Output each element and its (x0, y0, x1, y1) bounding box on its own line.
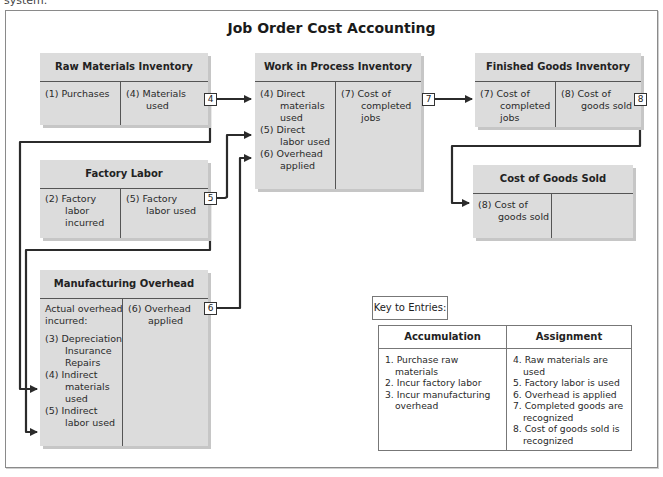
t-account-divider (551, 194, 552, 238)
account-title: Raw Materials Inventory (40, 53, 208, 82)
entry-2: (2) Factory (45, 193, 104, 205)
debit-side: (8) Cost of goods sold (478, 199, 549, 223)
accumulation-list: 1. Purchase raw materials 2. Incur facto… (385, 354, 503, 412)
actual-overhead-label-cont: incurred: (45, 315, 126, 327)
entry-5-cont: labor used (45, 417, 126, 429)
entry-5-cont: labor used (260, 136, 330, 148)
entry-7-cont: completed (341, 100, 411, 112)
key-item-2: 2. Incur factory labor (385, 377, 503, 389)
key-item-1: 1. Purchase raw materials (385, 354, 503, 377)
entry-tag-4: 4 (204, 93, 217, 106)
entry-3: (3) Depreciation (45, 333, 126, 345)
key-to-entries-table: Accumulation Assignment 1. Purchase raw … (378, 325, 632, 451)
entry-8-cont: goods sold (478, 211, 549, 223)
account-title: Manufacturing Overhead (40, 270, 208, 299)
entry-5-cont: labor used (126, 205, 196, 217)
entry-6-cont: applied (260, 160, 330, 172)
entry-4-cont: materials (45, 381, 126, 393)
key-to-entries-label: Key to Entries: (372, 296, 448, 320)
credit-side: (5) Factory labor used (126, 193, 196, 217)
entry-7-cont: jobs (480, 112, 550, 124)
entry-tag-7: 7 (422, 93, 435, 106)
entry-4-cont: used (260, 112, 330, 124)
entry-3-cont: Repairs (45, 357, 126, 369)
debit-side: (1) Purchases (45, 88, 110, 100)
credit-side: (6) Overhead applied (128, 303, 194, 327)
entry-7-cont: jobs (341, 112, 411, 124)
debit-side: Actual overhead incurred: (3) Depreciati… (45, 303, 126, 429)
entry-tag-6: 6 (204, 302, 217, 315)
entry-7: (7) Cost of (480, 88, 550, 100)
debit-side: (4) Direct materials used (5) Direct lab… (260, 88, 330, 172)
account-title: Work in Process Inventory (255, 53, 421, 82)
entry-4-cont: materials (260, 100, 330, 112)
account-finished-goods-inventory: Finished Goods Inventory (7) Cost of com… (475, 53, 641, 127)
key-item-5: 5. Factory labor is used (513, 377, 627, 389)
entry-6: (6) Overhead (128, 303, 194, 315)
actual-overhead-label: Actual overhead (45, 303, 126, 315)
debit-side: (7) Cost of completed jobs (480, 88, 550, 124)
t-account-divider (120, 82, 121, 125)
account-title: Cost of Goods Sold (473, 165, 633, 194)
assignment-header: Assignment (507, 326, 631, 349)
key-item-4: 4. Raw materials are used (513, 354, 627, 377)
entry-5: (5) Direct (260, 124, 330, 136)
entry-5: (5) Factory (126, 193, 196, 205)
credit-side: (4) Materials used (126, 88, 190, 112)
assignment-list: 4. Raw materials are used 5. Factory lab… (513, 354, 627, 446)
account-raw-materials-inventory: Raw Materials Inventory (1) Purchases (4… (40, 53, 208, 125)
entry-2-cont: incurred (45, 217, 104, 229)
entry-4-cont: used (45, 393, 126, 405)
entry-8-cont: goods sold (561, 100, 632, 112)
accumulation-header: Accumulation (379, 326, 506, 349)
credit-side: (8) Cost of goods sold (561, 88, 632, 112)
key-divider (506, 326, 507, 450)
entry-4: (4) Direct (260, 88, 330, 100)
entry-7-cont: completed (480, 100, 550, 112)
entry-2-cont: labor (45, 205, 104, 217)
t-account-divider (335, 82, 336, 189)
key-item-3: 3. Incur manufacturing overhead (385, 389, 503, 412)
entry-tag-5: 5 (204, 192, 217, 205)
entry-6-cont: applied (128, 315, 194, 327)
entry-7: (7) Cost of (341, 88, 411, 100)
key-item-8: 8. Cost of goods sold is recognized (513, 423, 627, 446)
debit-side: (2) Factory labor incurred (45, 193, 104, 229)
account-work-in-process-inventory: Work in Process Inventory (4) Direct mat… (255, 53, 421, 189)
entry-5: (5) Indirect (45, 405, 126, 417)
account-factory-labor: Factory Labor (2) Factory labor incurred… (40, 160, 208, 238)
entry-1: (1) Purchases (45, 88, 110, 99)
account-cost-of-goods-sold: Cost of Goods Sold (8) Cost of goods sol… (473, 165, 633, 238)
account-title: Factory Labor (40, 160, 208, 189)
entry-8: (8) Cost of (561, 88, 632, 100)
entry-4: (4) Materials (126, 88, 190, 100)
key-item-6: 6. Overhead is applied (513, 389, 627, 401)
entry-4-cont: used (126, 100, 190, 112)
entry-4: (4) Indirect (45, 369, 126, 381)
t-account-divider (120, 189, 121, 238)
key-item-7: 7. Completed goods are recognized (513, 400, 627, 423)
t-account-divider (555, 82, 556, 127)
credit-side: (7) Cost of completed jobs (341, 88, 411, 124)
entry-6: (6) Overhead (260, 148, 330, 160)
entry-tag-8: 8 (634, 93, 647, 106)
account-manufacturing-overhead: Manufacturing Overhead Actual overhead i… (40, 270, 208, 446)
entry-8: (8) Cost of (478, 199, 549, 211)
account-title: Finished Goods Inventory (475, 53, 641, 82)
entry-3-cont: Insurance (45, 345, 126, 357)
